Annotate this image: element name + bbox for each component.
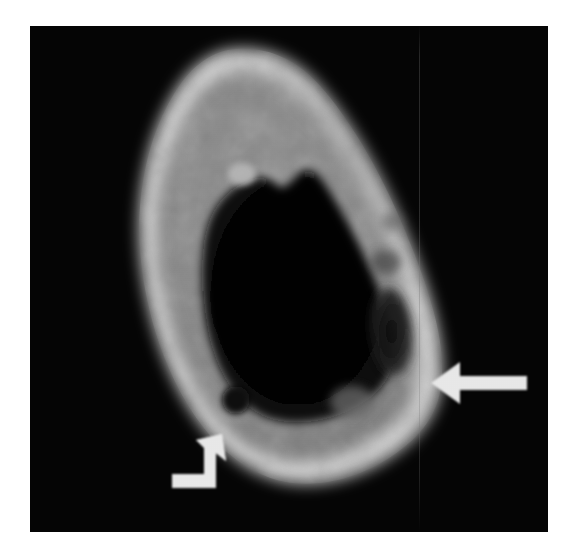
inferior-gray-patch — [330, 386, 374, 418]
curved-arrow — [172, 434, 226, 488]
scan-image-panel — [30, 26, 548, 532]
medial-round-lucency — [222, 386, 250, 414]
figure-root — [0, 0, 570, 555]
bone-cross-section-image — [30, 26, 548, 532]
straight-arrow — [431, 362, 527, 404]
endosteal-spur — [228, 163, 256, 185]
